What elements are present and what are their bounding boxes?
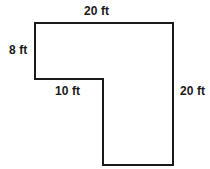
l-shape-figure <box>0 0 210 169</box>
diagram-canvas: 20 ft 8 ft 10 ft 20 ft ft <box>0 0 210 169</box>
dimension-label-right: 20 ft <box>180 85 205 98</box>
dimension-label-left: 8 ft <box>9 44 27 57</box>
dimension-label-inner-horizontal: 10 ft <box>55 85 80 98</box>
dimension-label-top: 20 ft <box>84 5 109 18</box>
diagram-background <box>0 0 210 169</box>
cropped-edge-text-fragment: ft <box>0 87 3 100</box>
